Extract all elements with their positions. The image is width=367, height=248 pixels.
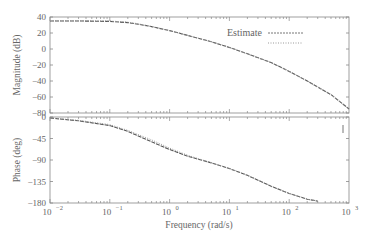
legend: Estimate (227, 27, 303, 43)
magnitude-x-ticks (50, 17, 346, 113)
phase-panel: 0−45−90−135−180 Phase (deg) Frequency (r… (12, 112, 358, 231)
x-tick-labels: 10−210−1100101102103 (43, 204, 359, 217)
x-tick-label: 10 (282, 207, 292, 217)
magnitude-y-label: Magnitude (dB) (12, 35, 23, 96)
legend-estimate-label: Estimate (227, 27, 263, 38)
series-line-estimate (50, 21, 349, 109)
x-tick-exponent: 1 (235, 204, 238, 211)
x-tick-label: 10 (43, 207, 53, 217)
x-tick-exponent: 3 (355, 204, 358, 211)
y-tick-label: −45 (32, 134, 47, 144)
x-tick-label: 10 (222, 207, 232, 217)
y-tick-label: −20 (32, 60, 47, 70)
phase-y-ticks: 0−45−90−135−180 (27, 112, 349, 208)
x-axis-label: Frequency (rad/s) (165, 220, 232, 231)
y-tick-label: 0 (42, 44, 47, 54)
phase-y-label: Phase (deg) (12, 138, 23, 183)
y-tick-label: −135 (27, 177, 46, 187)
magnitude-lines (50, 21, 349, 109)
magnitude-y-ticks: 40200−20−40−60−80 (32, 12, 349, 118)
y-tick-label: −90 (32, 155, 47, 165)
x-tick-exponent: −2 (56, 204, 63, 211)
series-line-true (50, 118, 318, 201)
x-tick-exponent: 0 (176, 204, 179, 211)
magnitude-axes-frame (50, 17, 349, 113)
magnitude-panel: 40200−20−40−60−80 Magnitude (dB) Estimat… (12, 12, 349, 118)
x-tick-exponent: 2 (295, 204, 298, 211)
bode-plot: 40200−20−40−60−80 Magnitude (dB) Estimat… (0, 0, 367, 248)
x-tick-exponent: −1 (116, 204, 123, 211)
series-line-estimate (50, 118, 318, 201)
series-line-true (50, 21, 349, 109)
y-tick-label: −60 (32, 92, 47, 102)
phase-x-ticks (50, 117, 346, 203)
y-tick-label: −40 (32, 76, 47, 86)
y-tick-label: 20 (37, 28, 47, 38)
x-tick-label: 10 (342, 207, 352, 217)
x-tick-label: 10 (102, 207, 112, 217)
y-tick-label: 40 (37, 12, 47, 22)
x-tick-label: 10 (162, 207, 172, 217)
y-tick-label: 0 (42, 112, 47, 122)
phase-lines (50, 118, 318, 201)
